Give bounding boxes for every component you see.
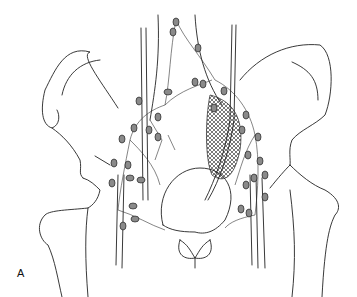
pelvis-lymph-node-diagram: [0, 0, 357, 297]
right-iliac-bone: [240, 45, 339, 297]
panel-label: A: [17, 267, 24, 279]
bladder: [161, 168, 231, 268]
left-iliac-bone: [39, 51, 118, 297]
vessels: [116, 15, 265, 268]
lymph-nodes: [109, 18, 268, 230]
